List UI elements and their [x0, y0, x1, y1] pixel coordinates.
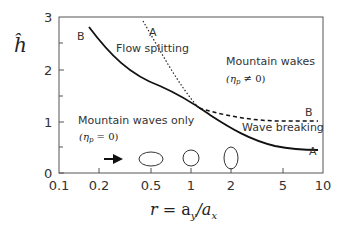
flow-splitting-label: Flow splitting [116, 42, 189, 55]
x-tick-label: 10 [315, 178, 332, 193]
mountain-ellipse-r-0-5 [139, 152, 163, 166]
mountain-wakes-label: Mountain wakes [226, 55, 315, 68]
x-tick-label: 2 [227, 178, 235, 193]
curve-label-b-top: B [77, 30, 85, 43]
y-tick-label: 2 [44, 63, 52, 78]
mountain-ellipse-r-2 [224, 147, 238, 169]
y-axis-title: ĥ [14, 33, 27, 57]
y-tick-label: 3 [44, 10, 52, 25]
regime-diagram-chart: 0 1 2 3 0.1 0.2 0.5 1 2 5 10 ĥ r = ay/ax… [0, 0, 347, 227]
waves-eta-label: (ηp = 0) [79, 131, 118, 144]
flow-direction-arrow-icon [104, 154, 123, 164]
mountain-ellipse-r-1 [183, 150, 199, 166]
curve-label-a-top: A [149, 26, 157, 39]
curve-label-b-right: B [305, 106, 313, 119]
x-tick-label: 0.2 [89, 178, 110, 193]
mountain-waves-only-label: Mountain waves only [78, 114, 195, 127]
x-tick-label: 0.1 [49, 178, 70, 193]
wave-breaking-label: Wave breaking [242, 121, 324, 134]
curve-label-a-right: A [309, 145, 317, 158]
y-axis-ticks [59, 43, 64, 173]
x-tick-label: 0.5 [141, 178, 162, 193]
x-axis-title: r = ay/ax [150, 200, 217, 221]
y-tick-label: 1 [44, 115, 52, 130]
x-axis-ticks [99, 168, 283, 173]
x-tick-label: 1 [187, 178, 195, 193]
wakes-eta-label: (ηp ≠ 0) [226, 73, 265, 86]
x-tick-label: 5 [279, 178, 287, 193]
